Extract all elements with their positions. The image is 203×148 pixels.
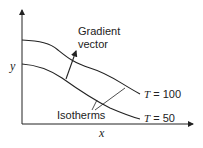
gradient-isotherm-diagram: Gradient vector y x Isotherms T = 100 T … (0, 0, 203, 148)
gradient-label-line1: Gradient (78, 26, 120, 37)
t50-label: T = 50 (144, 113, 175, 124)
t50-eq: = 50 (150, 112, 175, 124)
isotherms-label: Isotherms (57, 110, 105, 121)
isotherm-pointer-2 (95, 88, 125, 110)
gradient-vector-arrow (66, 51, 76, 79)
gradient-label-line2: vector (78, 39, 108, 50)
y-axis-label: y (10, 60, 15, 72)
t100-eq: = 100 (150, 88, 181, 100)
x-axis-label: x (99, 127, 104, 139)
t100-label: T = 100 (144, 89, 181, 100)
